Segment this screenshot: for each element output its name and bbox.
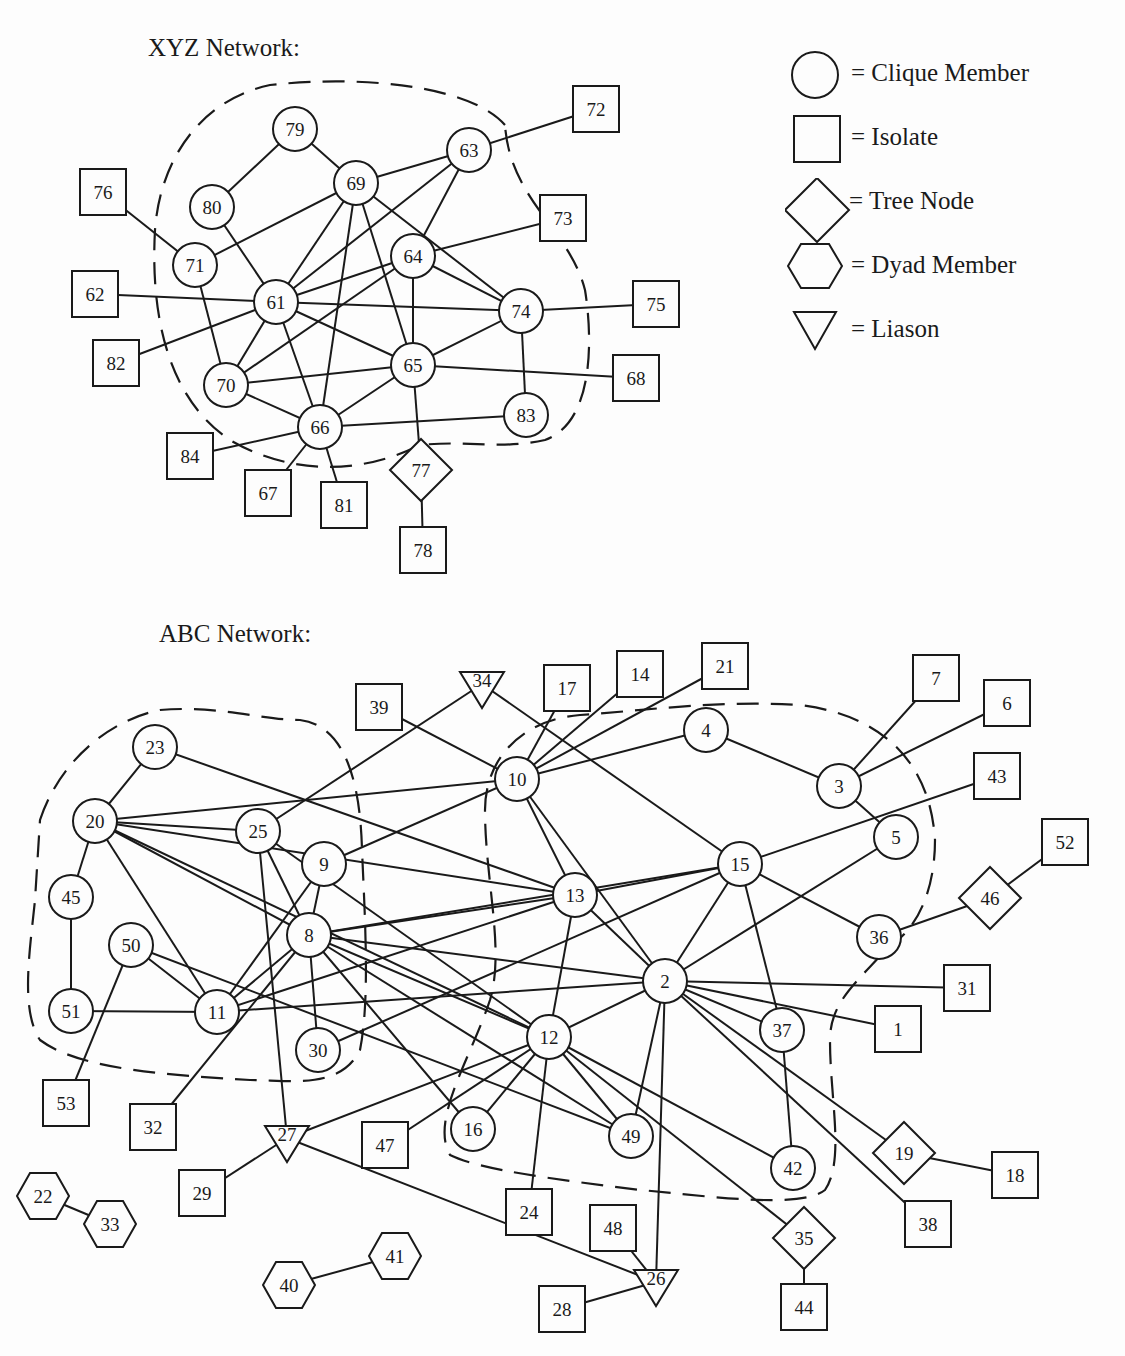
node-79-circle[interactable]: 79 bbox=[273, 107, 317, 151]
node-6-square[interactable]: 6 bbox=[984, 680, 1030, 726]
node-31-square[interactable]: 31 bbox=[944, 965, 990, 1011]
node-66-circle[interactable]: 66 bbox=[298, 405, 342, 449]
edge-12-24 bbox=[529, 1037, 549, 1212]
node-43-square[interactable]: 43 bbox=[974, 753, 1020, 799]
node-82-square[interactable]: 82 bbox=[93, 340, 139, 386]
node-7-square[interactable]: 7 bbox=[913, 655, 959, 701]
node-48-square[interactable]: 48 bbox=[590, 1205, 636, 1251]
node-4-circle[interactable]: 4 bbox=[684, 708, 728, 752]
node-24-square[interactable]: 24 bbox=[506, 1189, 552, 1235]
node-18-square[interactable]: 18 bbox=[992, 1152, 1038, 1198]
edge-15-36 bbox=[740, 864, 879, 937]
node-75-square[interactable]: 75 bbox=[633, 281, 679, 327]
node-64-circle[interactable]: 64 bbox=[391, 234, 435, 278]
node-37-circle[interactable]: 37 bbox=[760, 1008, 804, 1052]
node-38-square[interactable]: 38 bbox=[905, 1201, 951, 1247]
node-16-circle[interactable]: 16 bbox=[451, 1107, 495, 1151]
node-label: 22 bbox=[34, 1186, 53, 1207]
node-84-square[interactable]: 84 bbox=[167, 433, 213, 479]
node-label: 10 bbox=[508, 769, 527, 790]
node-29-square[interactable]: 29 bbox=[179, 1170, 225, 1216]
node-35-diamond[interactable]: 35 bbox=[773, 1207, 835, 1269]
node-15-circle[interactable]: 15 bbox=[718, 842, 762, 886]
xyz-network: 6162636465666768697071727374757677787980… bbox=[72, 81, 679, 573]
node-80-circle[interactable]: 80 bbox=[190, 185, 234, 229]
node-label: 68 bbox=[627, 368, 646, 389]
node-52-square[interactable]: 52 bbox=[1042, 819, 1088, 865]
node-50-circle[interactable]: 50 bbox=[109, 923, 153, 967]
legend-label: = Clique Member bbox=[851, 59, 1029, 87]
node-76-square[interactable]: 76 bbox=[80, 169, 126, 215]
node-44-square[interactable]: 44 bbox=[781, 1284, 827, 1330]
node-20-circle[interactable]: 20 bbox=[73, 799, 117, 843]
node-68-square[interactable]: 68 bbox=[613, 355, 659, 401]
node-28-square[interactable]: 28 bbox=[539, 1286, 585, 1332]
node-label: 29 bbox=[193, 1183, 212, 1204]
node-label: 23 bbox=[146, 737, 165, 758]
node-53-square[interactable]: 53 bbox=[43, 1080, 89, 1126]
node-47-square[interactable]: 47 bbox=[362, 1122, 408, 1168]
node-label: 64 bbox=[404, 246, 424, 267]
node-73-square[interactable]: 73 bbox=[540, 195, 586, 241]
node-74-circle[interactable]: 74 bbox=[499, 289, 543, 333]
node-25-circle[interactable]: 25 bbox=[236, 809, 280, 853]
node-3-circle[interactable]: 3 bbox=[817, 764, 861, 808]
node-13-circle[interactable]: 13 bbox=[553, 873, 597, 917]
node-45-circle[interactable]: 45 bbox=[49, 875, 93, 919]
node-61-circle[interactable]: 61 bbox=[254, 280, 298, 324]
node-49-circle[interactable]: 49 bbox=[609, 1114, 653, 1158]
node-67-square[interactable]: 67 bbox=[245, 470, 291, 516]
node-62-square[interactable]: 62 bbox=[72, 271, 118, 317]
node-36-circle[interactable]: 36 bbox=[857, 915, 901, 959]
node-1-square[interactable]: 1 bbox=[875, 1006, 921, 1052]
node-label: 27 bbox=[278, 1124, 297, 1145]
node-label: 48 bbox=[604, 1218, 623, 1239]
node-83-circle[interactable]: 83 bbox=[504, 393, 548, 437]
node-34-triangle[interactable]: 34 bbox=[460, 670, 504, 708]
node-33-hexagon[interactable]: 33 bbox=[84, 1201, 136, 1247]
node-8-circle[interactable]: 8 bbox=[287, 913, 331, 957]
node-63-circle[interactable]: 63 bbox=[447, 128, 491, 172]
node-12-circle[interactable]: 12 bbox=[527, 1015, 571, 1059]
node-41-hexagon[interactable]: 41 bbox=[369, 1233, 421, 1279]
node-17-square[interactable]: 17 bbox=[544, 665, 590, 711]
node-21-square[interactable]: 21 bbox=[702, 643, 748, 689]
legend-label: = Isolate bbox=[851, 123, 938, 151]
node-22-hexagon[interactable]: 22 bbox=[17, 1173, 69, 1219]
node-78-square[interactable]: 78 bbox=[400, 527, 446, 573]
node-46-diamond[interactable]: 46 bbox=[959, 867, 1021, 929]
node-72-square[interactable]: 72 bbox=[573, 86, 619, 132]
node-5-circle[interactable]: 5 bbox=[874, 815, 918, 859]
node-label: 2 bbox=[660, 971, 670, 992]
node-label: 14 bbox=[631, 664, 651, 685]
node-32-square[interactable]: 32 bbox=[130, 1104, 176, 1150]
edge-20-25 bbox=[95, 821, 258, 831]
node-2-circle[interactable]: 2 bbox=[643, 959, 687, 1003]
node-69-circle[interactable]: 69 bbox=[334, 161, 378, 205]
node-14-square[interactable]: 14 bbox=[617, 651, 663, 697]
node-23-circle[interactable]: 23 bbox=[133, 725, 177, 769]
node-19-diamond[interactable]: 19 bbox=[873, 1122, 935, 1184]
node-77-diamond[interactable]: 77 bbox=[390, 439, 452, 501]
node-71-circle[interactable]: 71 bbox=[173, 243, 217, 287]
edge-12-42 bbox=[549, 1037, 793, 1168]
node-label: 5 bbox=[891, 827, 901, 848]
node-label: 67 bbox=[259, 483, 278, 504]
node-11-circle[interactable]: 11 bbox=[195, 990, 239, 1034]
diamond-icon bbox=[785, 178, 851, 248]
node-81-square[interactable]: 81 bbox=[321, 482, 367, 528]
node-label: 77 bbox=[412, 460, 431, 481]
node-65-circle[interactable]: 65 bbox=[391, 343, 435, 387]
node-70-circle[interactable]: 70 bbox=[204, 363, 248, 407]
node-9-circle[interactable]: 9 bbox=[302, 842, 346, 886]
node-label: 11 bbox=[208, 1002, 226, 1023]
node-30-circle[interactable]: 30 bbox=[296, 1028, 340, 1072]
node-40-hexagon[interactable]: 40 bbox=[263, 1262, 315, 1308]
node-10-circle[interactable]: 10 bbox=[495, 757, 539, 801]
node-label: 4 bbox=[701, 720, 711, 741]
node-39-square[interactable]: 39 bbox=[356, 684, 402, 730]
node-label: 24 bbox=[520, 1202, 540, 1223]
node-42-circle[interactable]: 42 bbox=[771, 1146, 815, 1190]
node-label: 44 bbox=[795, 1297, 815, 1318]
node-51-circle[interactable]: 51 bbox=[49, 989, 93, 1033]
